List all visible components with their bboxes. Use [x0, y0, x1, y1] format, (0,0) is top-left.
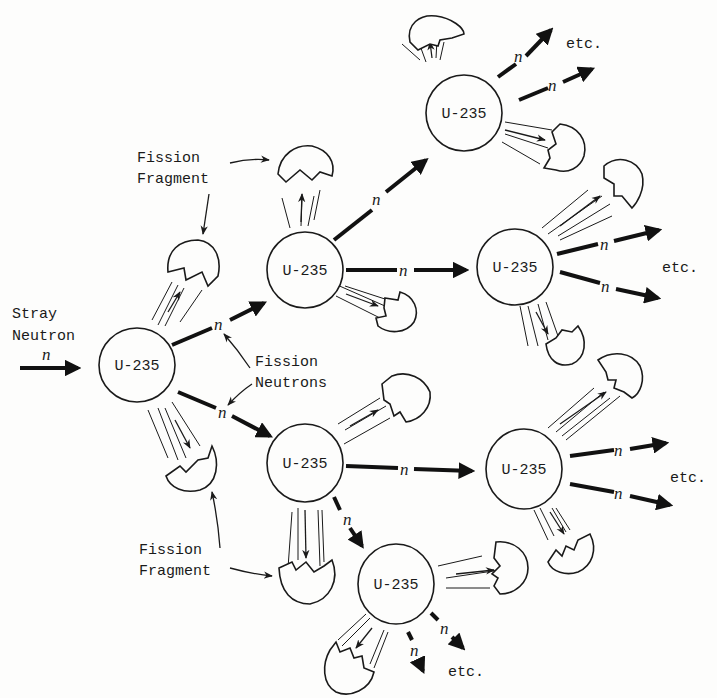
svg-text:n: n	[410, 641, 419, 660]
svg-text:etc.: etc.	[566, 36, 602, 53]
svg-text:Fragment: Fragment	[137, 171, 209, 188]
fragment-gen3-mid-lower	[520, 302, 584, 365]
fragment-gen2-top-upper	[278, 146, 333, 228]
nucleus-gen2-top: U-235	[267, 232, 343, 308]
nucleus-gen3-lower: U-235	[486, 429, 562, 509]
svg-text:Neutrons: Neutrons	[255, 375, 327, 392]
fragment-gen3-mid-upper	[542, 160, 643, 240]
svg-text:U-235: U-235	[441, 106, 486, 123]
fragment-gen3-top-lower	[502, 122, 585, 171]
svg-text:n: n	[548, 76, 557, 95]
fragment-gen1-upper	[152, 240, 219, 326]
stray-neutron-label: Stray Neutron n	[12, 306, 75, 364]
fission-chain-diagram: Stray Neutron n n n n n n n n	[0, 0, 717, 698]
fragment-gen2-top-lower	[335, 284, 416, 332]
fragment-gen3-top-upper	[402, 16, 464, 62]
svg-text:Fission: Fission	[137, 150, 200, 167]
svg-text:n: n	[399, 261, 408, 280]
svg-text:Neutron: Neutron	[12, 328, 75, 345]
nucleus-gen3-mid: U-235	[477, 229, 553, 305]
fragment-gen3-lower-lower	[534, 508, 594, 574]
svg-text:U-235: U-235	[114, 358, 159, 375]
svg-text:Fragment: Fragment	[139, 563, 211, 580]
svg-text:U-235: U-235	[282, 456, 327, 473]
svg-text:etc.: etc.	[670, 470, 706, 487]
fission-fragment-label-top: Fission Fragment	[137, 150, 269, 234]
svg-text:U-235: U-235	[373, 577, 418, 594]
svg-text:Fission: Fission	[255, 354, 318, 371]
fragment-gen2-bottom-lower	[279, 508, 335, 604]
svg-text:U-235: U-235	[282, 263, 327, 280]
svg-text:n: n	[42, 345, 51, 364]
fragment-gen3-lower-upper	[548, 354, 642, 440]
svg-text:Fission: Fission	[139, 542, 202, 559]
nucleus-gen1: U-235	[99, 328, 175, 402]
svg-text:n: n	[514, 47, 523, 66]
svg-text:Stray: Stray	[12, 306, 57, 323]
svg-text:U-235: U-235	[501, 462, 546, 479]
svg-text:n: n	[343, 510, 352, 529]
fragment-gen3-bottom-lower	[325, 614, 388, 694]
svg-text:n: n	[614, 484, 623, 503]
nucleus-gen3-top: U-235	[426, 75, 502, 151]
nucleus-gen2-bottom: U-235	[267, 424, 343, 502]
svg-text:n: n	[601, 277, 610, 296]
svg-text:n: n	[218, 403, 227, 422]
fission-fragment-label-bottom: Fission Fragment	[139, 492, 272, 580]
nucleus-gen3-bottom: U-235	[358, 544, 434, 624]
svg-text:n: n	[600, 235, 609, 254]
diagram-canvas: Stray Neutron n n n n n n n n	[0, 0, 717, 698]
fission-neutrons-label: Fission Neutrons	[224, 334, 327, 405]
fragment-gen3-bottom-right	[438, 542, 528, 594]
svg-text:n: n	[214, 315, 223, 334]
fragment-gen2-bottom-upper	[338, 374, 430, 444]
fragment-gen1-lower	[148, 402, 216, 491]
svg-text:n: n	[440, 619, 449, 638]
svg-text:etc.: etc.	[662, 260, 698, 277]
svg-text:n: n	[400, 460, 409, 479]
svg-text:U-235: U-235	[492, 260, 537, 277]
svg-text:etc.: etc.	[448, 664, 484, 681]
svg-text:n: n	[614, 441, 623, 460]
svg-text:n: n	[372, 190, 381, 209]
